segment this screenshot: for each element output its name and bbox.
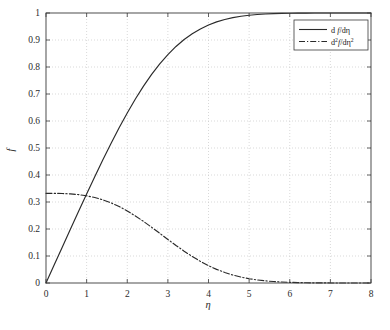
x-tick-label: 3 <box>166 289 171 299</box>
y-tick-label: 0.3 <box>28 197 40 207</box>
y-tick-label: 0.5 <box>28 143 40 153</box>
y-tick-label: 0.1 <box>28 251 40 261</box>
y-tick-label: 0.9 <box>28 35 40 45</box>
x-tick-label: 0 <box>44 289 49 299</box>
x-tick-label: 6 <box>287 289 292 299</box>
blasius-plot: 012345678 00.10.20.30.40.50.60.70.80.91 … <box>0 0 390 330</box>
x-tick-label: 5 <box>247 289 252 299</box>
x-axis-title: η <box>205 299 210 310</box>
x-tick-label: 1 <box>84 289 89 299</box>
legend-label-dfdeta: d f/dη <box>331 26 350 35</box>
x-tick-label: 7 <box>328 289 333 299</box>
y-tick-label: 0.7 <box>28 89 40 99</box>
x-tick-label: 8 <box>369 289 374 299</box>
y-tick-label: 0.4 <box>28 170 40 180</box>
y-tick-label: 0 <box>35 278 40 288</box>
legend-box[interactable]: d f/dη d2f/dη2 <box>294 20 368 50</box>
y-tick-label: 1 <box>35 8 40 18</box>
y-tick-label: 0.6 <box>28 116 40 126</box>
x-tick-label: 4 <box>206 289 211 299</box>
y-tick-label: 0.8 <box>28 62 40 72</box>
legend-label-d2fdeta2: d2f/dη2 <box>331 37 354 47</box>
figure-canvas: 012345678 00.10.20.30.40.50.60.70.80.91 … <box>0 0 390 330</box>
y-tick-label: 0.2 <box>28 224 40 234</box>
x-tick-label: 2 <box>125 289 130 299</box>
